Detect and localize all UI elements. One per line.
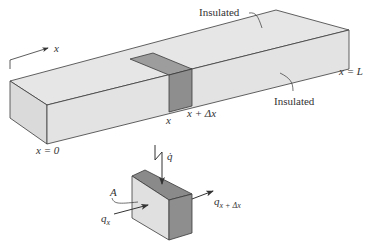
flux-in-label: qx [101, 212, 111, 227]
heat-source-label: q̇ [167, 150, 173, 162]
slice-front-face [169, 69, 192, 112]
area-label: A [109, 186, 117, 198]
x-axis-label: x [53, 42, 59, 54]
x-start-label: x = 0 [35, 144, 60, 156]
x-axis-arrow: x [10, 42, 59, 69]
insulated-top-label: Insulated [199, 6, 240, 18]
flux-out-arrow: qx + Δx [192, 191, 241, 210]
insulated-front-label: Insulated [274, 95, 315, 107]
flux-out-label: qx + Δx [214, 195, 241, 210]
slice-right-label: x + Δx [186, 107, 216, 119]
cv-right-face [169, 194, 192, 240]
slice-left-label: x [165, 114, 171, 126]
bar [10, 10, 349, 144]
bar-heat-conduction-diagram: x Insulated Insulated x = 0 x = L x x + … [0, 0, 370, 243]
x-end-label: x = L [338, 65, 363, 77]
